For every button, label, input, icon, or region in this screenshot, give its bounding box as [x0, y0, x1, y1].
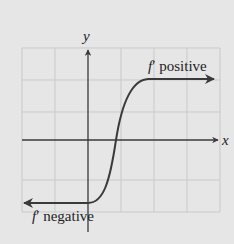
- derivative-graph: y x f′ positive f′ negative: [0, 0, 234, 244]
- annotation-f-prime-positive: f′ positive: [148, 58, 207, 74]
- derivative-curve: [24, 79, 214, 203]
- y-axis-label: y: [81, 28, 90, 44]
- x-axis-label: x: [221, 132, 229, 148]
- annotation-f-prime-negative: f′ negative: [32, 208, 94, 224]
